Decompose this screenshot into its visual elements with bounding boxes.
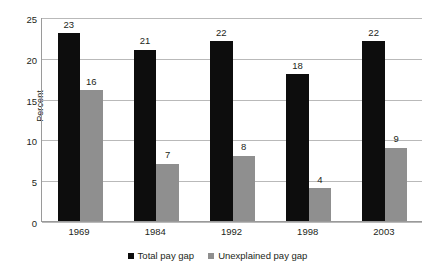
bar-unexplained-pay-gap[interactable]: 16 [80,90,103,221]
bar-value-label: 21 [140,36,151,46]
legend: Total pay gapUnexplained pay gap [0,250,435,261]
x-axis-tick-label: 1992 [221,226,242,237]
y-axis-tick-label: 0 [32,218,37,229]
y-axis-tick-label: 15 [26,95,37,106]
bar-value-label: 8 [241,142,246,152]
legend-item[interactable]: Unexplained pay gap [208,250,307,261]
bar-value-label: 22 [368,28,379,38]
bar-unexplained-pay-gap[interactable]: 4 [309,188,332,221]
legend-swatch-icon [128,253,134,259]
x-axis-tick-label: 1984 [145,226,166,237]
gridline: 0 [42,222,422,223]
bar-total-pay-gap[interactable]: 23 [58,33,81,221]
y-axis-tick-label: 25 [26,14,37,25]
y-axis-tick-label: 5 [32,177,37,188]
bar-value-label: 4 [317,175,322,185]
x-axis-tick-label: 1969 [69,226,90,237]
bar-total-pay-gap[interactable]: 22 [362,41,385,221]
bar-unexplained-pay-gap[interactable]: 8 [233,156,256,221]
legend-swatch-icon [208,253,214,259]
x-axis-tick-label: 2003 [373,226,394,237]
bar-group: 229 [362,18,407,221]
legend-label: Total pay gap [138,250,195,261]
bar-total-pay-gap[interactable]: 18 [286,74,309,221]
plot-area: 0510152025 2316217228184229 [41,18,422,222]
bar-chart: Percent 0510152025 2316217228184229 1969… [0,0,435,274]
x-axis-tick-label: 1998 [297,226,318,237]
bar-value-label: 18 [292,61,303,71]
bar-value-label: 22 [216,28,227,38]
legend-label: Unexplained pay gap [218,250,307,261]
bar-group: 184 [286,18,331,221]
bar-group: 217 [134,18,179,221]
bar-unexplained-pay-gap[interactable]: 7 [156,164,179,221]
bar-group: 2316 [58,18,103,221]
bar-value-label: 16 [86,77,97,87]
bar-total-pay-gap[interactable]: 21 [134,50,157,221]
legend-item[interactable]: Total pay gap [128,250,195,261]
bar-value-label: 23 [64,20,75,30]
bars-layer: 2316217228184229 [42,18,422,221]
bar-value-label: 7 [165,150,170,160]
bar-unexplained-pay-gap[interactable]: 9 [385,148,408,221]
bar-total-pay-gap[interactable]: 22 [210,41,233,221]
bar-group: 228 [210,18,255,221]
bar-value-label: 9 [393,134,398,144]
y-axis-tick-label: 20 [26,54,37,65]
y-axis-tick-label: 10 [26,136,37,147]
